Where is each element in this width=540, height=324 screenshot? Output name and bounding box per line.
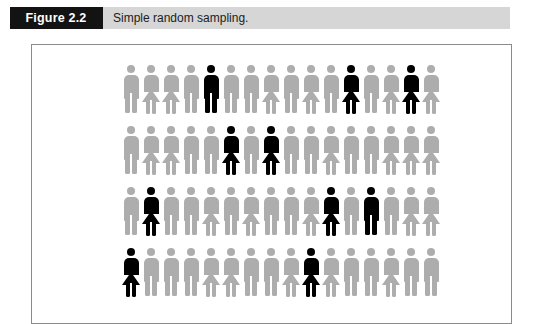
person-icon-female-population	[321, 124, 341, 176]
person-leg-gap	[250, 93, 252, 114]
person-head	[347, 126, 355, 134]
person-leg-gap	[290, 215, 292, 236]
person-leg-gap	[370, 93, 372, 114]
person-leg-gap	[310, 100, 312, 115]
person-head	[247, 187, 255, 195]
person-leg-right	[232, 162, 236, 175]
person-leg-right	[412, 279, 418, 296]
person-leg-gap	[190, 93, 192, 114]
person-icon-female-population	[281, 246, 301, 298]
person-leg-gap	[430, 161, 432, 176]
person-icon-male-population	[181, 246, 201, 298]
person-leg-right	[372, 218, 378, 235]
person-head	[287, 187, 295, 195]
person-leg-right	[332, 284, 336, 297]
person-head	[367, 126, 375, 134]
person-leg-gap	[190, 215, 192, 236]
person-head	[387, 65, 395, 73]
person-head	[427, 187, 435, 195]
person-leg-right	[392, 162, 396, 175]
person-head	[167, 187, 175, 195]
person-leg-gap	[410, 161, 412, 176]
person-leg-gap	[230, 161, 232, 176]
person-head	[247, 248, 255, 256]
person-icon-male-population	[401, 246, 421, 298]
person-leg-gap	[370, 154, 372, 175]
pictogram-row	[121, 185, 431, 246]
person-leg-right	[412, 101, 416, 114]
person-head	[407, 187, 415, 195]
person-icon-female-population	[141, 63, 161, 115]
person-icon-male-population	[121, 185, 141, 237]
person-icon-female-population	[321, 246, 341, 298]
person-head	[227, 126, 235, 134]
person-leg-right	[172, 218, 178, 235]
person-leg-right	[292, 218, 298, 235]
person-head	[307, 248, 315, 256]
person-leg-right	[192, 279, 198, 296]
person-icon-male-population	[341, 124, 361, 176]
person-leg-gap	[390, 283, 392, 298]
person-icon-male-population	[221, 185, 241, 237]
person-head	[167, 65, 175, 73]
person-leg-gap	[170, 215, 172, 236]
person-head	[167, 126, 175, 134]
person-head	[427, 65, 435, 73]
person-head	[147, 187, 155, 195]
person-head	[307, 126, 315, 134]
person-head	[167, 248, 175, 256]
person-leg-right	[192, 218, 198, 235]
person-leg-right	[412, 223, 416, 236]
person-icon-male-population	[361, 63, 381, 115]
person-leg-right	[172, 101, 176, 114]
person-icon-male-population	[281, 124, 301, 176]
person-head	[267, 187, 275, 195]
person-icon-male-population	[321, 63, 341, 115]
person-head	[407, 248, 415, 256]
person-leg-gap	[210, 283, 212, 298]
person-leg-gap	[430, 100, 432, 115]
person-icon-female-population	[221, 246, 241, 298]
person-head	[367, 65, 375, 73]
person-head	[207, 126, 215, 134]
person-head	[187, 187, 195, 195]
person-head	[327, 187, 335, 195]
person-icon-female-sampled	[121, 246, 141, 298]
person-leg-right	[312, 284, 316, 297]
person-head	[347, 65, 355, 73]
person-icon-female-sampled	[301, 246, 321, 298]
person-icon-female-population	[201, 246, 221, 298]
person-icon-female-population	[201, 185, 221, 237]
person-icon-female-population	[261, 63, 281, 115]
person-head	[147, 65, 155, 73]
person-head	[427, 248, 435, 256]
person-icon-female-population	[161, 63, 181, 115]
person-leg-right	[152, 162, 156, 175]
person-leg-right	[132, 96, 138, 113]
person-head	[307, 65, 315, 73]
person-head	[407, 126, 415, 134]
person-leg-gap	[250, 222, 252, 237]
person-leg-gap	[250, 154, 252, 175]
person-head	[207, 248, 215, 256]
person-head	[287, 65, 295, 73]
person-head	[227, 65, 235, 73]
person-leg-gap	[130, 215, 132, 236]
person-leg-right	[252, 157, 258, 174]
person-icon-male-sampled	[361, 185, 381, 237]
person-leg-right	[332, 223, 336, 236]
person-head	[187, 126, 195, 134]
person-head	[327, 248, 335, 256]
person-leg-gap	[150, 276, 152, 297]
person-leg-gap	[230, 93, 232, 114]
person-leg-gap	[310, 283, 312, 298]
person-leg-gap	[390, 215, 392, 236]
person-icon-male-population	[201, 124, 221, 176]
pictogram-row	[121, 63, 431, 124]
person-head	[227, 248, 235, 256]
person-icon-male-population	[381, 185, 401, 237]
person-leg-gap	[190, 154, 192, 175]
person-head	[147, 126, 155, 134]
figure-image-frame	[31, 44, 512, 324]
person-icon-male-population	[361, 246, 381, 298]
